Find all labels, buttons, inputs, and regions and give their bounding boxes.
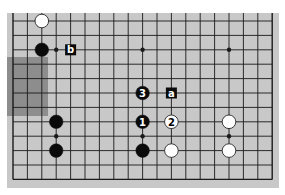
white-stone	[222, 115, 236, 129]
stone-disc	[35, 43, 49, 57]
marker-a: a	[166, 88, 177, 99]
star-point	[54, 48, 58, 52]
black-stone-3: 3	[136, 86, 150, 100]
star-point	[140, 134, 144, 138]
black-stone	[136, 144, 150, 158]
white-stone	[35, 14, 49, 28]
marker-letter: a	[168, 88, 175, 99]
white-stone	[165, 144, 179, 158]
move-number: 3	[139, 88, 146, 99]
black-stone-1: 1	[136, 115, 150, 129]
marker-letter: b	[67, 44, 74, 55]
stone-disc	[49, 144, 63, 158]
stone-disc	[35, 14, 49, 28]
go-board: 312 ba	[0, 0, 285, 195]
stone-disc	[222, 144, 236, 158]
black-stone	[49, 115, 63, 129]
stone-disc	[165, 144, 179, 158]
move-number: 1	[139, 117, 146, 128]
move-number: 2	[168, 117, 175, 128]
white-stone	[222, 144, 236, 158]
stone-disc	[136, 144, 150, 158]
black-stone	[35, 43, 49, 57]
star-point	[227, 48, 231, 52]
stone-disc	[222, 115, 236, 129]
star-point	[227, 134, 231, 138]
go-board-diagram: 312 ba	[0, 0, 285, 195]
white-stone-2: 2	[165, 115, 179, 129]
star-point	[140, 48, 144, 52]
stone-disc	[49, 115, 63, 129]
black-stone	[49, 144, 63, 158]
marker-b: b	[65, 44, 76, 55]
star-point	[54, 134, 58, 138]
